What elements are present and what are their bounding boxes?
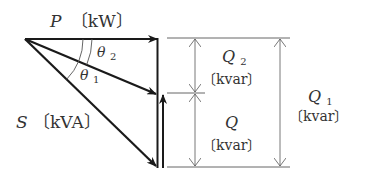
svg-text:Q 2: Q 2 <box>222 47 247 67</box>
q-unit: 〔kvar〕 <box>202 137 261 153</box>
q-symbol: Q <box>225 113 238 132</box>
theta2-sub: 2 <box>110 51 116 62</box>
svg-text:Q: Q <box>225 113 238 132</box>
q1-sub: 1 <box>326 96 332 107</box>
svg-text:Q 1: Q 1 <box>308 87 333 107</box>
power-triangle-diagram: P 〔kW〕 θ 2 θ 1 S 〔kVA〕 Q 2 〔kvar〕 Q 〔kva… <box>0 0 368 181</box>
q1-unit: 〔kvar〕 <box>289 108 348 124</box>
s-vector-arrow <box>25 39 156 166</box>
q2-unit: 〔kvar〕 <box>202 71 261 87</box>
q1-symbol: Q <box>308 87 321 106</box>
theta2-symbol: θ <box>97 44 106 60</box>
q2-symbol: Q <box>222 47 235 66</box>
p-unit: 〔kW〕 <box>71 11 133 31</box>
theta1-sub: 1 <box>93 74 99 85</box>
s-unit: 〔kVA〕 <box>33 112 101 132</box>
s-symbol: S <box>16 112 28 132</box>
theta1-symbol: θ <box>80 67 89 83</box>
svg-text:θ 2: θ 2 <box>97 44 116 62</box>
theta2-arc <box>87 39 92 65</box>
svg-text:S 〔kVA〕: S 〔kVA〕 <box>16 112 101 132</box>
q2-sub: 2 <box>240 56 246 67</box>
svg-text:P 〔kW〕: P 〔kW〕 <box>49 11 133 31</box>
p-symbol: P <box>49 11 62 31</box>
